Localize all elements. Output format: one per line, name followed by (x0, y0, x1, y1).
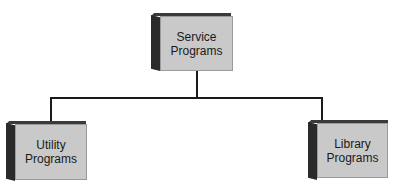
node-side-edge (6, 123, 15, 181)
connector-trunk (196, 70, 198, 98)
node-utility-programs: Utility Programs (6, 121, 88, 181)
node-library-programs: Library Programs (308, 120, 390, 180)
node-label-line2: Programs (25, 152, 77, 166)
connector-bus (50, 97, 323, 99)
node-label-line1: Utility (36, 138, 65, 152)
node-side-edge (151, 15, 160, 71)
node-face: Service Programs (160, 16, 233, 71)
node-face: Utility Programs (15, 124, 87, 180)
node-label-line2: Programs (326, 151, 378, 165)
node-label-line1: Library (334, 137, 371, 151)
connector-to-utility (50, 97, 52, 124)
node-side-edge (308, 122, 317, 180)
node-face: Library Programs (317, 123, 388, 178)
node-label-line2: Programs (170, 44, 222, 58)
node-service-programs: Service Programs (151, 13, 235, 71)
node-label-line1: Service (176, 30, 216, 44)
